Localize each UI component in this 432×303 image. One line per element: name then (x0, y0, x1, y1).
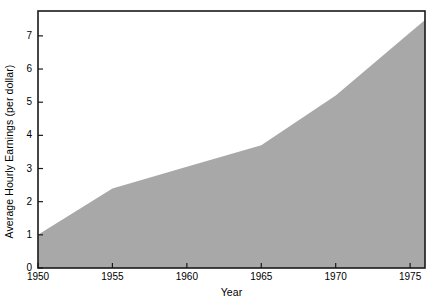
x-axis-tick-label: 1960 (165, 272, 209, 282)
x-axis-label: Year (38, 286, 425, 298)
y-axis-tick-label: 6 (16, 64, 32, 74)
area-series (38, 20, 425, 268)
y-axis-tick-label: 5 (16, 97, 32, 107)
x-axis-tick-label: 1965 (239, 272, 283, 282)
x-axis-tick-label: 1970 (314, 272, 358, 282)
plot-area (0, 0, 432, 303)
x-axis-tick-label: 1975 (388, 272, 432, 282)
y-axis-tick-label: 7 (16, 31, 32, 41)
y-axis-tick-label: 4 (16, 130, 32, 140)
y-axis-tick-label: 2 (16, 197, 32, 207)
y-axis-tick-label: 1 (16, 230, 32, 240)
chart-container: Average Hourly Earnings (per dollar) 012… (0, 0, 432, 303)
y-axis-tick-label: 3 (16, 164, 32, 174)
x-axis-tick-label: 1955 (90, 272, 134, 282)
x-axis-tick-label: 1950 (16, 272, 60, 282)
